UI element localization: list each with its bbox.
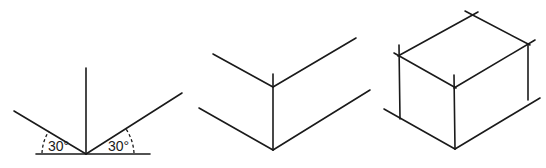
upper-right-edge — [273, 38, 356, 87]
upper-left-edge — [213, 54, 273, 87]
top-left-back-edge — [398, 12, 478, 56]
right-30-line — [86, 93, 182, 154]
right-angle-label: 30° — [108, 138, 129, 154]
isometric-drawing-steps: 30° 30° — [0, 0, 546, 168]
front-vertical-edge — [454, 75, 455, 149]
bottom-right-edge — [455, 98, 540, 149]
lower-right-edge — [273, 90, 370, 150]
top-right-front-edge — [454, 40, 535, 88]
figure-isometric-box — [384, 11, 540, 149]
lower-left-edge — [199, 108, 273, 150]
figure-corner-edges — [199, 38, 370, 150]
left-angle-label: 30° — [48, 138, 69, 154]
bottom-left-edge — [384, 109, 455, 149]
top-right-back-edge — [465, 11, 530, 45]
top-left-front-edge — [394, 53, 456, 88]
figure-angle-construction: 30° 30° — [14, 68, 182, 154]
left-vertical-edge — [399, 45, 400, 119]
